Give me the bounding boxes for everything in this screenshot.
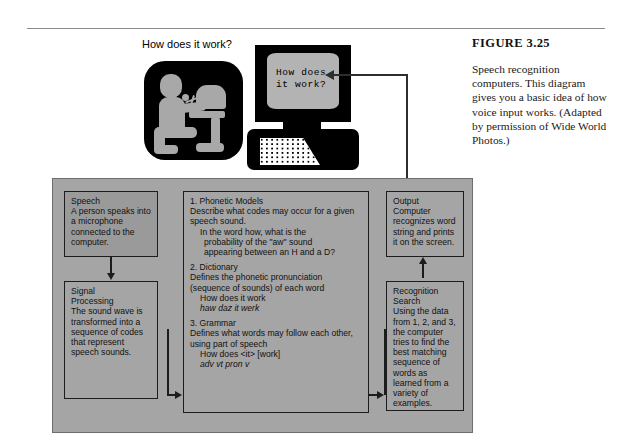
person-torso-shape — [159, 97, 185, 131]
recognition-box-body: Using the data from 1, 2, and 3, the com… — [393, 306, 456, 408]
diagram-box-output: Output Computer recognizes word string a… — [386, 191, 464, 257]
dictionary-title: 2. Dictionary — [190, 262, 363, 272]
keypad-shape — [260, 138, 320, 165]
phonetic-models-example-line1: In the word how, what is the — [190, 227, 363, 237]
arrow-speech-to-signal-line — [110, 257, 112, 274]
grammar-title: 3. Grammar — [190, 318, 363, 328]
diagram-box-signal-processing: Signal Processing The sound wave is tran… — [64, 281, 158, 399]
signal-box-body: The sound wave is transformed into a seq… — [71, 306, 143, 357]
dictionary-line1: Defines the phonetic pronunciation — [190, 272, 322, 282]
grammar-example-tags: adv vt pron v — [190, 359, 363, 369]
arrow-recognition-to-output-head-icon — [419, 257, 427, 264]
dictionary-line2: (sequence of sounds) of each word — [190, 283, 324, 293]
arrow-signal-to-center-head-icon — [175, 391, 182, 399]
output-box-title: Output — [393, 196, 458, 206]
diagram-box-speech: Speech A person speaks into a microphone… — [64, 191, 158, 257]
phonetic-models-example-line3: appearing between an H and a D? — [190, 247, 363, 257]
output-to-monitor-connector-horizontal — [332, 74, 407, 76]
person-foot-shape — [154, 145, 178, 154]
arrow-center-to-recognition-head-icon — [377, 391, 384, 399]
diagram-panel: Speech A person speaks into a microphone… — [52, 178, 473, 433]
phonetic-models-title: 1. Phonetic Models — [190, 196, 363, 206]
speech-question-label: How does it work? — [142, 38, 232, 50]
arrow-recognition-to-output-line — [422, 264, 424, 278]
phonetic-models-example-line2: probability of the "aw" sound — [190, 237, 363, 247]
output-to-monitor-arrowhead-icon — [325, 70, 334, 80]
speech-box-title: Speech — [71, 196, 152, 206]
signal-box-title-line1: Signal — [71, 286, 152, 296]
figure-number-label: FIGURE 3.25 — [472, 36, 607, 51]
illustration-area: How does it work? How does it work? — [120, 34, 370, 179]
signal-box-title-line2: Processing — [71, 296, 152, 306]
page-top-rule — [27, 28, 605, 29]
recognition-box-title-line2: Search — [393, 296, 458, 306]
diagram-box-recognition-search: Recognition Search Using the data from 1… — [386, 281, 464, 411]
output-box-body: Computer recognizes word string and prin… — [393, 206, 456, 247]
keypad-keys-pattern — [260, 138, 320, 165]
grammar-example-sentence: How does <it> [work] — [190, 349, 363, 359]
grammar-line1: Defines what words may follow — [190, 328, 308, 338]
monitor-screen-text: How does it work? — [276, 67, 326, 91]
small-monitor-shape — [196, 85, 226, 109]
arrow-speech-to-signal-head-icon — [107, 273, 115, 280]
desk-top-shape — [189, 111, 225, 118]
desk-foot-shape — [196, 143, 224, 152]
dictionary-example-phonetic: haw daz it werk — [190, 303, 363, 313]
arrow-signal-to-center-vertical — [167, 329, 169, 395]
desktop-computer-icon: How does it work? — [247, 45, 361, 173]
person-head-shape — [160, 74, 182, 98]
person-at-computer-icon — [144, 61, 243, 160]
microphone-ball-shape — [182, 94, 189, 101]
monitor-bezel-shape: How does it work? — [255, 45, 351, 122]
phonetic-models-line1: Describe what codes may occur — [190, 206, 312, 216]
figure-caption-text: Speech recognition computers. This diagr… — [472, 62, 607, 147]
diagram-box-models: 1. Phonetic Models Describe what codes m… — [183, 191, 369, 413]
speech-box-body: A person speaks into a microphone connec… — [71, 206, 151, 247]
output-to-monitor-connector-vertical — [406, 74, 408, 187]
computer-base-shape — [247, 129, 359, 170]
recognition-box-title-line1: Recognition — [393, 286, 458, 296]
monitor-screen: How does it work? — [267, 53, 339, 109]
figure-page: How does it work? How does it work? — [0, 0, 617, 444]
dictionary-example-words: How does it work — [190, 293, 363, 303]
figure-caption-column: FIGURE 3.25 Speech recognition computers… — [472, 36, 607, 147]
